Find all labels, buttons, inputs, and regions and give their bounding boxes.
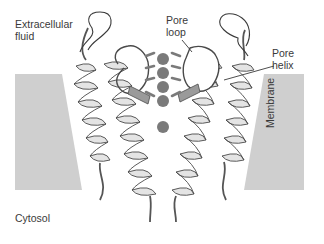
right-turret-loop	[220, 14, 250, 56]
ion-channel-diagram: Extracellular fluid Pore loop Pore helix…	[0, 0, 324, 244]
left-outer-helix	[74, 28, 110, 200]
ion	[157, 53, 169, 65]
ion	[157, 95, 169, 107]
potassium-ions	[157, 53, 169, 133]
left-turret-loop	[80, 12, 111, 52]
membrane-left	[15, 74, 82, 190]
extracellular-fluid-label: Extracellular fluid	[15, 18, 73, 42]
cytosol-label: Cytosol	[15, 212, 50, 224]
pore-helix-label: Pore helix	[272, 47, 294, 71]
right-pore-loop	[183, 46, 219, 91]
ion	[157, 81, 169, 93]
ion	[157, 121, 169, 133]
membrane-label: Membrane	[264, 78, 276, 128]
ion	[157, 67, 169, 79]
pore-loop-label: Pore loop	[166, 14, 188, 38]
pore-loop-leader	[182, 40, 192, 52]
